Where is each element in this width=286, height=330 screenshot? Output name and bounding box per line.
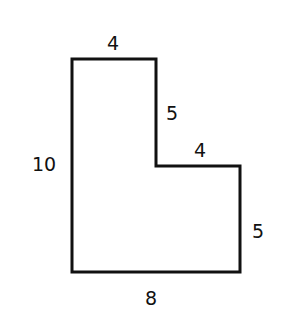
label-right: 5 [252,220,264,242]
label-inner-horizontal: 4 [194,139,206,161]
label-inner-vertical: 5 [166,102,178,124]
label-top: 4 [107,32,119,54]
label-bottom: 8 [145,287,157,309]
label-left: 10 [32,153,56,175]
l-shape-diagram: 4 5 4 10 5 8 [0,0,286,330]
l-shape-outline [72,59,240,272]
